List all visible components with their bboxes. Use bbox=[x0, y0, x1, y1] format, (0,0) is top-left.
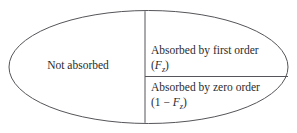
region-label-not-absorbed: Not absorbed bbox=[14, 59, 142, 73]
formula-close-paren: ) bbox=[165, 59, 169, 71]
formula-open-expr: (1 − bbox=[151, 96, 173, 108]
region-formula-absorbed-zero-order: (1 − Fz) bbox=[151, 96, 187, 110]
formula-close-paren: ) bbox=[183, 96, 187, 108]
region-label-absorbed-zero-order: Absorbed by zero order bbox=[151, 81, 260, 95]
formula-variable-F: F bbox=[155, 59, 162, 71]
formula-variable-F: F bbox=[173, 96, 180, 108]
region-formula-absorbed-first-order: (Fz) bbox=[151, 59, 169, 73]
partition-diagram: Not absorbed Absorbed by first order (Fz… bbox=[0, 0, 297, 133]
region-label-absorbed-first-order: Absorbed by first order bbox=[151, 44, 259, 58]
